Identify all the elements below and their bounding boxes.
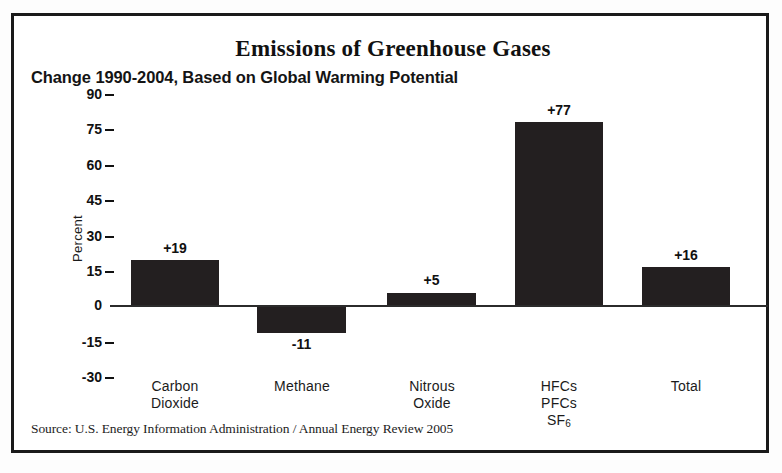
bar-value-methane: -11 xyxy=(257,336,346,352)
x-tick-label-methane-line1: Methane xyxy=(252,378,352,395)
y-tick-mark-90 xyxy=(105,94,114,96)
y-tick-mark-neg15 xyxy=(105,342,114,344)
plot-area: Percent 90 75 60 45 30 15 0 -15 -30 +1 xyxy=(14,16,772,456)
x-tick-label-nitrous-oxide: Nitrous Oxide xyxy=(382,378,482,412)
y-tick-mark-60 xyxy=(105,165,114,167)
sf6-subscript: 6 xyxy=(565,418,571,429)
bar-hfcs-pfcs-sf6[interactable] xyxy=(515,122,603,305)
y-tick-mark-neg30 xyxy=(105,377,114,379)
zero-baseline-axis xyxy=(110,305,768,307)
x-tick-label-nitrous-oxide-line1: Nitrous xyxy=(382,378,482,395)
figure-canvas: Emissions of Greenhouse Gases Change 199… xyxy=(0,0,782,473)
x-tick-label-nitrous-oxide-line2: Oxide xyxy=(382,395,482,412)
y-tick-label-15: 15 xyxy=(56,265,102,277)
bar-methane[interactable] xyxy=(257,307,346,333)
y-tick-mark-15 xyxy=(105,271,114,273)
x-tick-label-carbon-dioxide-line1: Carbon xyxy=(125,378,225,395)
x-tick-label-methane: Methane xyxy=(252,378,352,395)
bar-value-carbon-dioxide: +19 xyxy=(131,240,219,256)
x-tick-label-hfcs-pfcs-sf6-line2: PFCs xyxy=(509,395,609,412)
chart-frame-border: Emissions of Greenhouse Gases Change 199… xyxy=(11,13,769,453)
y-tick-label-0: 0 xyxy=(56,299,102,311)
y-tick-label-45: 45 xyxy=(56,194,102,206)
y-tick-label-30: 30 xyxy=(56,230,102,242)
y-tick-label-neg30: -30 xyxy=(56,371,102,383)
x-tick-label-hfcs-pfcs-sf6-line3: SF6 xyxy=(509,412,609,430)
y-tick-mark-45 xyxy=(105,200,114,202)
y-tick-label-60: 60 xyxy=(56,159,102,171)
x-tick-label-total-line1: Total xyxy=(636,378,736,395)
x-tick-label-total: Total xyxy=(636,378,736,395)
bar-carbon-dioxide[interactable] xyxy=(131,260,219,305)
x-tick-label-carbon-dioxide-line2: Dioxide xyxy=(125,395,225,412)
x-tick-label-carbon-dioxide: Carbon Dioxide xyxy=(125,378,225,412)
x-tick-label-hfcs-pfcs-sf6: HFCs PFCs SF6 xyxy=(509,378,609,430)
bar-total[interactable] xyxy=(642,267,730,305)
y-tick-mark-75 xyxy=(105,129,114,131)
y-tick-label-75: 75 xyxy=(56,123,102,135)
x-tick-label-hfcs-pfcs-sf6-line1: HFCs xyxy=(509,378,609,395)
bar-value-hfcs-pfcs-sf6: +77 xyxy=(515,102,603,118)
y-tick-label-neg15: -15 xyxy=(56,336,102,348)
bar-value-nitrous-oxide: +5 xyxy=(387,272,476,288)
source-note: Source: U.S. Energy Information Administ… xyxy=(31,421,453,437)
bar-nitrous-oxide[interactable] xyxy=(387,293,476,305)
y-tick-mark-30 xyxy=(105,236,114,238)
bar-value-total: +16 xyxy=(642,247,730,263)
sf6-formula: SF6 xyxy=(547,412,571,428)
y-tick-label-90: 90 xyxy=(56,88,102,100)
